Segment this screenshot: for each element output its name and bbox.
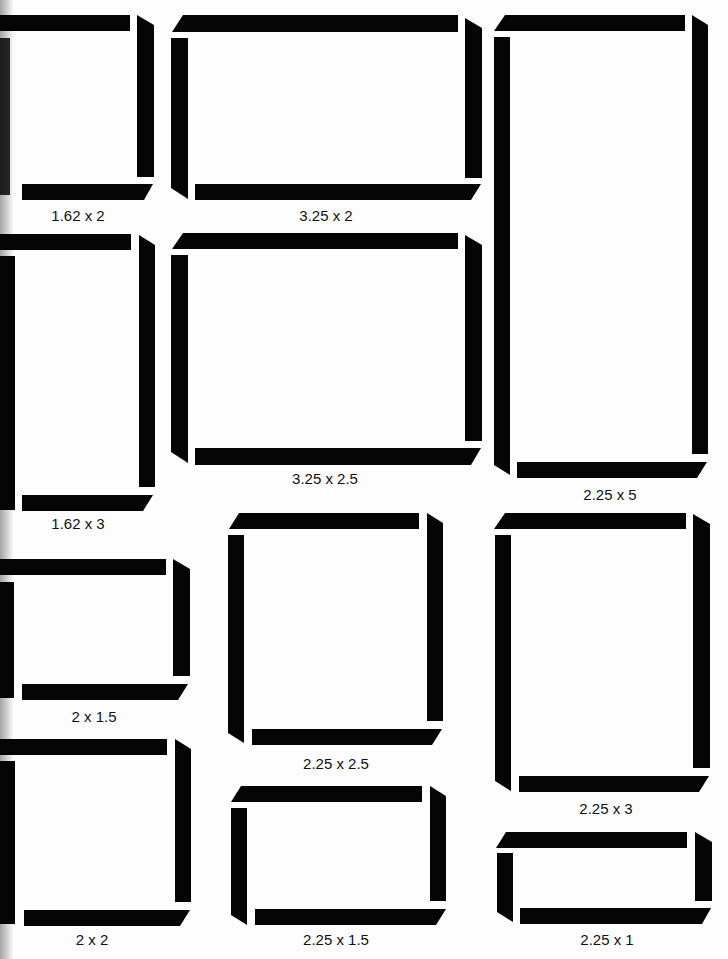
frame-label-2x2: 2 x 2 xyxy=(76,931,109,948)
frame-2x2 xyxy=(0,739,191,926)
frame-1-62x2 xyxy=(0,15,154,200)
frame-label-2x1-5: 2 x 1.5 xyxy=(71,708,116,725)
frame-label-2-25x1-5: 2.25 x 1.5 xyxy=(303,931,369,948)
frame-2-25x3 xyxy=(494,513,710,792)
frame-label-3-25x2: 3.25 x 2 xyxy=(299,207,352,224)
frame-1-62x3 xyxy=(0,234,155,511)
frame-label-3-25x2-5: 3.25 x 2.5 xyxy=(292,470,358,487)
frame-label-2-25x3: 2.25 x 3 xyxy=(579,800,632,817)
frame-label-2-25x2-5: 2.25 x 2.5 xyxy=(303,755,369,772)
frame-2x1-5 xyxy=(0,559,190,700)
frame-2-25x5 xyxy=(494,15,708,478)
frame-2-25x2-5 xyxy=(228,513,443,745)
frame-label-2-25x1: 2.25 x 1 xyxy=(580,931,633,948)
frame-3-25x2-5 xyxy=(171,233,482,465)
frame-label-1-62x3: 1.62 x 3 xyxy=(51,515,104,532)
frame-label-1-62x2: 1.62 x 2 xyxy=(51,207,104,224)
frame-2-25x1-5 xyxy=(231,786,446,925)
frame-3-25x2 xyxy=(171,15,482,200)
frame-2-25x1 xyxy=(496,832,712,924)
frame-label-2-25x5: 2.25 x 5 xyxy=(583,486,636,503)
